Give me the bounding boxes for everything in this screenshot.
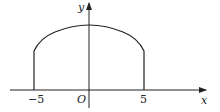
- x-axis-label: x: [201, 94, 208, 107]
- diagram-canvas: y x O −5 5: [0, 0, 220, 112]
- tick-label-5: 5: [140, 93, 147, 106]
- y-axis-label: y: [77, 1, 85, 14]
- origin-label: O: [77, 93, 86, 106]
- tick-label-neg5: −5: [28, 93, 44, 106]
